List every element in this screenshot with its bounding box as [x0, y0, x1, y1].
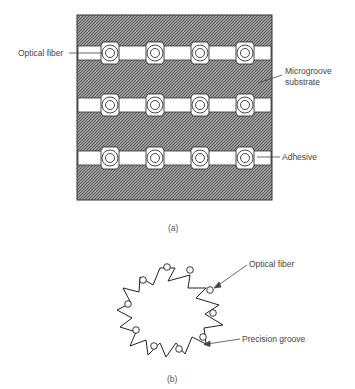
label-adhesive: Adhesive — [282, 152, 317, 162]
caption-b: (b) — [167, 374, 177, 384]
label-precision-groove: Precision groove — [242, 334, 305, 344]
label-optical-fiber-a: Optical fiber — [18, 48, 63, 58]
diagram-canvas — [0, 0, 355, 389]
caption-a: (a) — [168, 223, 178, 233]
label-optical-fiber-b: Optical fiber — [249, 259, 294, 269]
label-microgroove: Microgroove — [285, 66, 332, 76]
label-substrate: substrate — [285, 77, 320, 87]
